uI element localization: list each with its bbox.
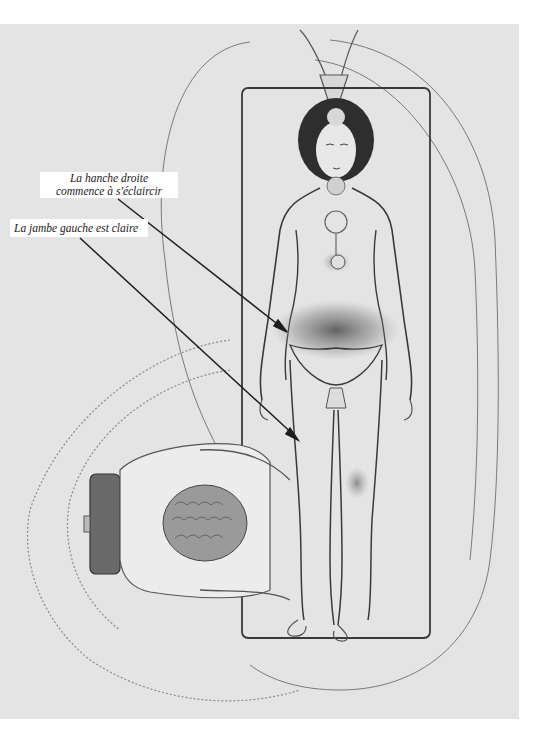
woman-figure	[260, 98, 412, 641]
annotation-leg-label: La jambe gauche est claire	[10, 219, 148, 237]
healing-illustration	[0, 0, 537, 731]
stool	[90, 474, 120, 574]
healer-figure	[84, 444, 290, 600]
crown-chakra-funnel	[300, 30, 358, 100]
leg-arrow	[80, 238, 296, 437]
annotation-hip-label: La hanche droite commence à s'éclaircir	[40, 172, 178, 198]
annotation-hip-line-1: La hanche droite	[44, 172, 174, 185]
annotation-hip-line-2: commence à s'éclaircir	[44, 185, 174, 198]
